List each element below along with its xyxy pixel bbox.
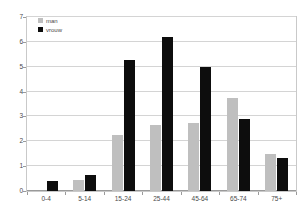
x-axis-tick-mark bbox=[27, 192, 28, 195]
bar-man-65-74[interactable] bbox=[227, 98, 238, 191]
bar-man-15-24[interactable] bbox=[112, 135, 123, 191]
legend-item-man[interactable]: man bbox=[38, 17, 62, 24]
legend-item-vrouw[interactable]: vrouw bbox=[38, 26, 62, 33]
x-axis-category-label: 65-74 bbox=[219, 196, 257, 203]
bar-vrouw-75+[interactable] bbox=[277, 158, 288, 191]
x-axis-tick-mark bbox=[181, 192, 182, 195]
x-axis-tick-mark bbox=[65, 192, 66, 195]
x-axis-category-label: 25-44 bbox=[142, 196, 180, 203]
y-axis-tick-label: 6 bbox=[1, 39, 23, 46]
bar-vrouw-0-4[interactable] bbox=[47, 181, 58, 191]
bar-group bbox=[65, 17, 103, 191]
chart-legend: manvrouw bbox=[38, 17, 62, 33]
y-axis-tick-labels: 01234567 bbox=[0, 16, 23, 192]
legend-label: vrouw bbox=[46, 27, 62, 33]
x-axis-category-label: 5-14 bbox=[65, 196, 103, 203]
x-axis-tick-mark bbox=[258, 192, 259, 195]
bar-man-5-14[interactable] bbox=[73, 180, 84, 191]
x-axis-category-label: 45-64 bbox=[181, 196, 219, 203]
bar-man-75+[interactable] bbox=[265, 154, 276, 191]
legend-swatch-icon bbox=[38, 27, 43, 32]
bar-vrouw-25-44[interactable] bbox=[162, 37, 173, 191]
y-axis-tick-label: 2 bbox=[1, 138, 23, 145]
bar-vrouw-65-74[interactable] bbox=[239, 119, 250, 191]
bar-vrouw-45-64[interactable] bbox=[200, 67, 211, 191]
bar-chart: 01234567 0-45-1415-2425-4445-6465-7475+ … bbox=[0, 0, 304, 218]
bar-group bbox=[258, 17, 296, 191]
x-axis-tick-mark bbox=[219, 192, 220, 195]
x-axis-tick-mark bbox=[142, 192, 143, 195]
x-axis-tick-mark bbox=[296, 192, 297, 195]
bars-layer bbox=[27, 17, 296, 191]
bar-man-25-44[interactable] bbox=[150, 125, 161, 191]
bar-group bbox=[104, 17, 142, 191]
bar-group bbox=[142, 17, 180, 191]
x-axis-category-label: 15-24 bbox=[104, 196, 142, 203]
y-axis-tick-label: 1 bbox=[1, 163, 23, 170]
bar-group bbox=[27, 17, 65, 191]
y-axis-tick-label: 4 bbox=[1, 88, 23, 95]
x-axis-labels: 0-45-1415-2425-4445-6465-7475+ bbox=[27, 196, 296, 212]
y-axis-tick-label: 5 bbox=[1, 63, 23, 70]
legend-label: man bbox=[46, 18, 58, 24]
bar-vrouw-15-24[interactable] bbox=[124, 60, 135, 191]
y-axis-tick-label: 3 bbox=[1, 113, 23, 120]
bar-group bbox=[181, 17, 219, 191]
bar-man-45-64[interactable] bbox=[188, 123, 199, 191]
x-axis-tick-mark bbox=[104, 192, 105, 195]
legend-swatch-icon bbox=[38, 18, 43, 23]
x-axis-category-label: 0-4 bbox=[27, 196, 65, 203]
bar-vrouw-5-14[interactable] bbox=[85, 175, 96, 191]
x-axis-category-label: 75+ bbox=[258, 196, 296, 203]
y-axis-tick-label: 7 bbox=[1, 14, 23, 21]
bar-group bbox=[219, 17, 257, 191]
y-axis-tick-label: 0 bbox=[1, 188, 23, 195]
